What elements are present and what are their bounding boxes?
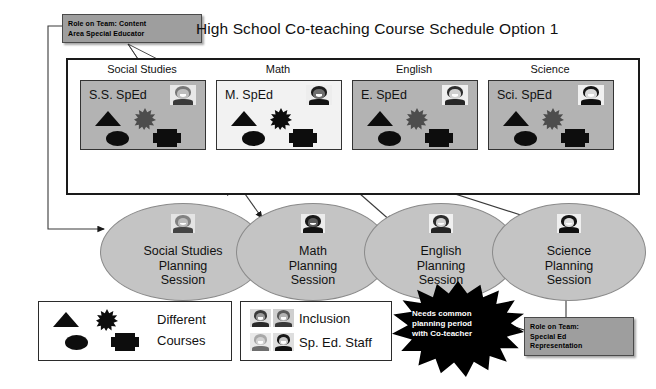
course-symbol-plaque	[153, 133, 181, 143]
subject-label-social-studies: Social Studies	[80, 63, 204, 75]
role-box-top-line1: Role on Team: Content	[68, 19, 196, 29]
course-symbol-ellipse	[106, 131, 129, 146]
person-head-icon	[273, 309, 294, 327]
teacher-head-icon	[306, 85, 332, 105]
person-head-icon	[250, 333, 271, 351]
person-head-icon	[273, 333, 294, 351]
course-card-science: Sci. SpEd	[488, 80, 614, 150]
legend-courses-line1: Different	[157, 312, 206, 327]
course-symbol-starburst	[270, 108, 292, 130]
course-card-label-science: Sci. SpEd	[497, 88, 552, 102]
subject-label-science: Science	[488, 63, 612, 75]
course-symbol-plaque	[561, 133, 589, 143]
person-head-icon	[250, 309, 271, 327]
legend-symbol-starburst	[96, 309, 118, 331]
legend-inclusion-label: Inclusion	[299, 311, 350, 326]
course-card-social-studies: S.S. SpEd	[80, 80, 206, 150]
burst-line2: planning period	[412, 319, 518, 329]
legend-sped-staff-label: Sp. Ed. Staff	[299, 335, 372, 350]
course-symbol-triangle	[503, 111, 529, 126]
legend-symbol-triangle	[53, 312, 79, 327]
course-card-english: E. SpEd	[352, 80, 478, 150]
course-symbol-ellipse	[242, 131, 265, 146]
session-head-icon	[557, 214, 581, 233]
session-head-icon	[301, 214, 325, 233]
course-symbol-triangle	[231, 111, 257, 126]
teacher-head-icon	[442, 85, 468, 105]
course-symbol-starburst	[542, 108, 564, 130]
course-card-label-social-studies: S.S. SpEd	[89, 88, 147, 102]
course-card-label-english: E. SpEd	[361, 88, 407, 102]
course-symbol-triangle	[367, 111, 393, 126]
course-symbol-starburst	[406, 108, 428, 130]
course-symbol-ellipse	[378, 131, 401, 146]
legend-different-courses: Different Courses	[38, 301, 232, 361]
session-line3: Session	[493, 273, 645, 288]
burst-line3: with Co-teacher	[412, 329, 518, 339]
course-symbol-triangle	[95, 111, 121, 126]
session-line2: Planning	[493, 259, 645, 274]
burst-callout-text: Needs common planning period with Co-tea…	[398, 309, 518, 339]
teacher-head-icon	[170, 85, 196, 105]
course-symbol-starburst	[134, 108, 156, 130]
session-head-icon	[429, 214, 453, 233]
role-box-bottom-line3: Representation	[530, 341, 628, 351]
page-title: High School Co-teaching Course Schedule …	[196, 20, 558, 38]
legend-people: Inclusion Sp. Ed. Staff	[240, 301, 392, 361]
course-symbol-plaque	[289, 133, 317, 143]
course-symbol-plaque	[425, 133, 453, 143]
session-head-icon	[171, 214, 195, 233]
legend-symbol-ellipse	[65, 335, 88, 350]
legend-sped-staff-icons	[250, 333, 294, 351]
role-box-content-area-special-educator: Role on Team: Content Area Special Educa…	[62, 14, 202, 43]
course-frame: Social Studies S.S. SpEd Math M. SpEd	[66, 58, 640, 195]
course-card-math: M. SpEd	[216, 80, 342, 150]
subject-label-english: English	[352, 63, 476, 75]
role-box-special-ed-representation: Role on Team: Special Ed Representation	[524, 317, 634, 356]
teacher-head-icon	[578, 85, 604, 105]
course-card-label-math: M. SpEd	[225, 88, 273, 102]
legend-inclusion-icons	[250, 309, 294, 327]
session-science: Science Planning Session	[492, 203, 646, 301]
role-box-bottom-line1: Role on Team:	[530, 322, 628, 332]
role-box-top-line2: Area Special Educator	[68, 29, 196, 39]
course-symbol-ellipse	[514, 131, 537, 146]
session-label-science: Science Planning Session	[493, 244, 645, 288]
subject-label-math: Math	[216, 63, 340, 75]
role-box-bottom-line2: Special Ed	[530, 332, 628, 342]
legend-symbol-plaque	[111, 337, 139, 347]
diagram-canvas: Role on Team: Content Area Special Educa…	[0, 0, 656, 389]
session-line1: Science	[493, 244, 645, 259]
legend-courses-line2: Courses	[157, 333, 205, 348]
burst-line1: Needs common	[412, 309, 518, 319]
